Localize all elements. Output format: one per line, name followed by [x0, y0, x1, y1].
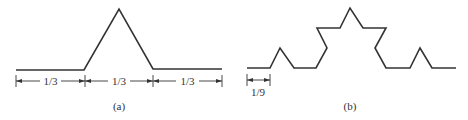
figure-b: 1/9 (b): [247, 8, 456, 113]
arrow-right-icon: [264, 78, 270, 82]
segment-label: 1/3: [112, 75, 127, 87]
arrow-right-icon: [79, 79, 85, 83]
segment-label: 1/9: [251, 86, 266, 98]
segment-label: 1/3: [180, 75, 195, 87]
arrow-right-icon: [216, 79, 222, 83]
figure-a: 1/3 1/3 1/3 (a): [16, 9, 222, 113]
dimension-segment-1: 1/3: [16, 75, 85, 87]
arrow-left-icon: [153, 79, 159, 83]
koch-iteration-2-curve: [247, 8, 456, 68]
dimension-segment-3: 1/3: [153, 75, 222, 87]
figure-b-caption: (b): [344, 100, 357, 113]
dimension-segment-2: 1/3: [85, 75, 153, 87]
koch-curve-diagram: 1/3 1/3 1/3 (a) 1/9 (b): [0, 0, 468, 120]
arrow-left-icon: [247, 78, 253, 82]
segment-label: 1/3: [43, 75, 58, 87]
arrow-left-icon: [16, 79, 22, 83]
figure-a-caption: (a): [113, 100, 126, 113]
arrow-left-icon: [85, 79, 91, 83]
arrow-right-icon: [147, 79, 153, 83]
dimension-segment-1-9: [247, 78, 270, 82]
koch-iteration-1-curve: [16, 9, 222, 70]
